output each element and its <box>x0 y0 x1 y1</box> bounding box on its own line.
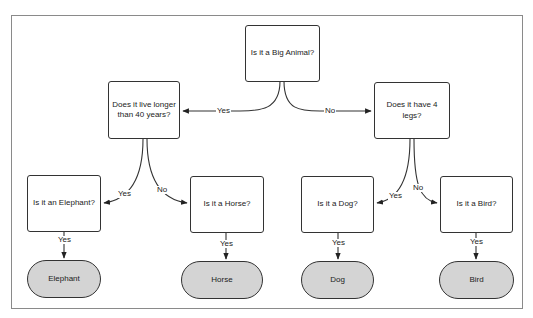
node-label: Is it a Horse? <box>203 199 250 209</box>
terminal-label: Dog <box>330 275 345 285</box>
edge-legs-bird <box>414 139 437 203</box>
terminal-bird[interactable]: Bird <box>439 261 514 299</box>
edge-label-yes: Yes <box>331 239 346 247</box>
terminal-horse[interactable]: Horse <box>181 261 263 299</box>
terminal-label: Elephant <box>48 274 80 284</box>
edge-root-lifespan <box>183 81 280 111</box>
edge-label-yes: Yes <box>388 192 403 200</box>
node-q-bird[interactable]: Is it a Bird? <box>440 176 513 233</box>
node-label: Does it have 4 legs? <box>378 100 446 121</box>
edge-label-no: No <box>156 186 168 194</box>
node-lifespan[interactable]: Does it live longer than 40 years? <box>108 81 180 139</box>
edge-label-yes: Yes <box>216 107 231 115</box>
node-q-elephant[interactable]: Is it an Elephant? <box>27 175 101 232</box>
node-label: Is it a Big Animal? <box>251 48 315 58</box>
edge-label-yes: Yes <box>469 238 484 246</box>
node-label: Is it a Dog? <box>317 199 357 209</box>
edge-label-yes: Yes <box>219 240 234 248</box>
edge-label-yes: Yes <box>117 190 132 198</box>
terminal-label: Horse <box>211 275 232 285</box>
node-legs[interactable]: Does it have 4 legs? <box>374 82 450 139</box>
node-root[interactable]: Is it a Big Animal? <box>245 25 320 82</box>
edge-label-no: No <box>324 107 336 115</box>
edge-label-yes: Yes <box>57 236 72 244</box>
node-label: Is it an Elephant? <box>33 198 95 208</box>
terminal-elephant[interactable]: Elephant <box>27 260 101 298</box>
edge-label-no: No <box>412 184 424 192</box>
terminal-label: Bird <box>469 275 483 285</box>
node-q-horse[interactable]: Is it a Horse? <box>190 176 264 233</box>
node-label: Does it live longer than 40 years? <box>112 100 176 121</box>
terminal-dog[interactable]: Dog <box>301 261 374 299</box>
node-label: Is it a Bird? <box>456 199 496 209</box>
node-q-dog[interactable]: Is it a Dog? <box>301 176 374 233</box>
